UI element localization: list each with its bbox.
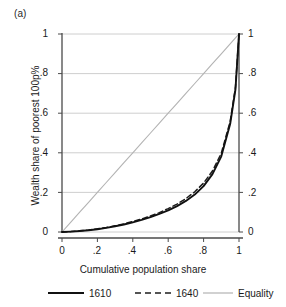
plot-area bbox=[0, 0, 286, 307]
lorenz-curve-figure: (a) Wealth share of poorest 100p% Cumula… bbox=[0, 0, 286, 307]
legend-item-1640: 1640 bbox=[135, 283, 198, 303]
legend: 1610 1640 Equality bbox=[0, 283, 286, 305]
axis-spines bbox=[58, 33, 243, 238]
data-series bbox=[62, 34, 239, 232]
legend-item-1610: 1610 bbox=[48, 283, 111, 303]
legend-key-equality bbox=[203, 288, 233, 298]
series-line-equality bbox=[62, 34, 239, 232]
axis-tick-marks bbox=[58, 34, 243, 242]
legend-key-solid bbox=[48, 288, 84, 298]
legend-label: 1640 bbox=[176, 288, 198, 299]
legend-label: 1610 bbox=[89, 288, 111, 299]
legend-item-equality: Equality bbox=[203, 283, 274, 303]
legend-key-dashed bbox=[135, 288, 171, 298]
legend-label: Equality bbox=[238, 288, 274, 299]
